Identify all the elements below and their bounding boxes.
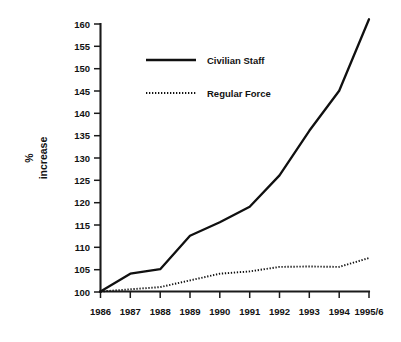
y-tick-label: 125 — [74, 175, 91, 186]
y-axis-ticks: 160 155 150 145 140 135 130 125 120 115 … — [74, 19, 100, 298]
x-tick-label: 1990 — [209, 306, 230, 317]
x-tick-label: 1995/6 — [354, 306, 383, 317]
y-tick-label: 145 — [74, 86, 91, 97]
chart-legend: Civilian Staff Regular Force — [146, 55, 271, 99]
y-axis-title-line1: % — [23, 153, 35, 163]
x-axis-ticks: 1986 1987 1988 1989 1990 1991 1992 1993 … — [90, 292, 384, 318]
series-line-regular-force — [101, 258, 370, 292]
y-axis-title-line2: increase — [37, 137, 49, 180]
x-tick-label: 1993 — [299, 306, 320, 317]
legend-label-civilian-staff: Civilian Staff — [207, 55, 265, 66]
x-tick-label: 1987 — [120, 306, 141, 317]
y-tick-label: 140 — [74, 108, 90, 119]
y-tick-label: 135 — [74, 130, 91, 141]
x-tick-label: 1992 — [269, 306, 290, 317]
x-tick-label: 1988 — [150, 306, 171, 317]
y-tick-label: 155 — [74, 41, 91, 52]
y-tick-label: 130 — [74, 153, 90, 164]
x-tick-label: 1994 — [329, 306, 351, 317]
chart-page: 160 155 150 145 140 135 130 125 120 115 … — [0, 0, 401, 342]
y-tick-label: 120 — [74, 197, 90, 208]
y-tick-label: 160 — [74, 19, 90, 30]
y-tick-label: 150 — [74, 63, 90, 74]
percent-increase-line-chart: 160 155 150 145 140 135 130 125 120 115 … — [0, 0, 401, 342]
x-tick-label: 1986 — [90, 306, 111, 317]
y-axis-title: % increase — [23, 137, 49, 180]
legend-label-regular-force: Regular Force — [207, 88, 271, 99]
x-tick-label: 1991 — [239, 306, 261, 317]
y-tick-label: 115 — [75, 220, 91, 231]
y-tick-label: 105 — [74, 264, 91, 275]
x-tick-label: 1989 — [179, 306, 200, 317]
y-tick-label: 100 — [74, 287, 90, 298]
y-tick-label: 110 — [75, 242, 90, 253]
